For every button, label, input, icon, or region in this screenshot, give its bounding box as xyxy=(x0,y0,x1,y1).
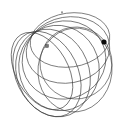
figure-background xyxy=(0,0,120,123)
tick-marker xyxy=(61,11,62,13)
filled-dot-marker xyxy=(101,39,106,44)
orbit-diagram-canvas xyxy=(0,0,120,123)
open-square-marker xyxy=(46,45,49,48)
orbit-figure: Family of orbits through a common point xyxy=(0,0,120,123)
